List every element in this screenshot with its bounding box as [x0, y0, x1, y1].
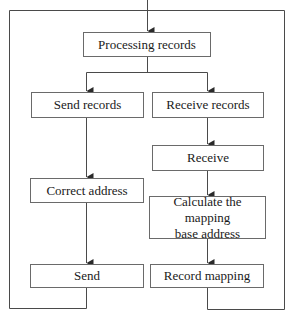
node-calculate-mapping-base-address: Calculate the mapping base address: [149, 196, 266, 239]
node-send-records: Send records: [31, 92, 144, 118]
node-label: Send: [74, 268, 100, 284]
node-label: Receive records: [166, 97, 249, 113]
node-label: Record mapping: [164, 268, 250, 284]
node-receive-records: Receive records: [152, 92, 264, 118]
node-label: Receive: [187, 150, 229, 166]
node-label: Send records: [54, 97, 122, 113]
node-record-mapping: Record mapping: [150, 264, 264, 288]
node-label: Calculate the mapping base address: [150, 194, 265, 242]
node-label: Correct address: [46, 183, 127, 199]
node-receive: Receive: [152, 145, 264, 171]
node-send: Send: [30, 264, 144, 288]
node-processing-records: Processing records: [83, 32, 211, 57]
node-correct-address: Correct address: [30, 178, 144, 203]
node-label: Processing records: [98, 37, 196, 53]
